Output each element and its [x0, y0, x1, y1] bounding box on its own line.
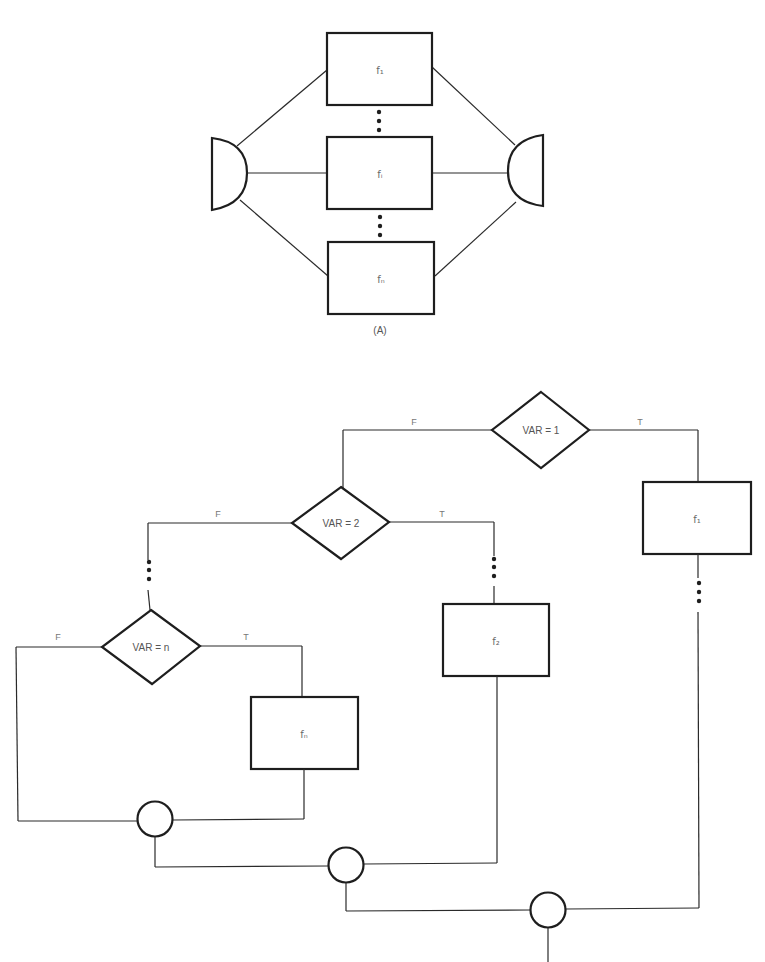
box-label: fₙ — [377, 274, 385, 285]
box-label: fᵢ — [377, 169, 383, 180]
ellipsis-dot — [147, 577, 151, 581]
box-label: fₙ — [300, 729, 308, 740]
connector-line — [237, 70, 327, 146]
junction-circle-3 — [531, 893, 566, 928]
false-label: F — [411, 417, 417, 427]
connector-line — [432, 67, 515, 145]
ellipsis-dot — [492, 565, 496, 569]
false-label: F — [55, 632, 61, 642]
box-label: f₁ — [376, 65, 384, 76]
diagram-canvas: f₁ fᵢ fₙ (A) VAR = 1 F T f₁ — [0, 0, 765, 962]
flow-line — [148, 590, 150, 610]
decision-condition: VAR = n — [133, 642, 170, 653]
ellipsis-dot — [378, 224, 382, 228]
join-shape-icon — [508, 135, 543, 206]
box-label: f₁ — [693, 514, 701, 525]
connector-line — [435, 202, 516, 276]
figure-caption: (A) — [373, 325, 386, 336]
ellipsis-dot — [697, 590, 701, 594]
box-label: f₂ — [492, 636, 500, 647]
ellipsis-dot — [377, 110, 381, 114]
ellipsis-dot — [697, 599, 701, 603]
true-label: T — [637, 417, 643, 427]
fork-shape-icon — [212, 138, 247, 210]
merge-line — [155, 866, 328, 867]
ellipsis-dot — [377, 128, 381, 132]
junction-circle-1 — [138, 802, 173, 837]
connector-line — [240, 200, 328, 276]
false-label: F — [215, 509, 221, 519]
merge-line — [566, 908, 699, 909]
merge-line — [364, 863, 497, 864]
ellipsis-dot — [492, 557, 496, 561]
decision-condition: VAR = 2 — [323, 518, 360, 529]
ellipsis-dot — [697, 581, 701, 585]
figure-b: VAR = 1 F T f₁ VAR = 2 F T f₂ — [16, 392, 751, 962]
true-label: T — [439, 509, 445, 519]
ellipsis-dot — [378, 233, 382, 237]
ellipsis-dot — [378, 215, 382, 219]
ellipsis-dot — [492, 574, 496, 578]
merge-line — [346, 910, 530, 911]
junction-circle-2 — [329, 848, 364, 883]
ellipsis-dot — [147, 560, 151, 564]
ellipsis-dot — [377, 119, 381, 123]
true-label: T — [243, 632, 249, 642]
false-branch-line — [16, 647, 18, 821]
ellipsis-dot — [147, 568, 151, 572]
merge-line — [173, 819, 304, 820]
flow-line — [698, 612, 699, 908]
decision-condition: VAR = 1 — [523, 425, 560, 436]
figure-a: f₁ fᵢ fₙ (A) — [212, 33, 543, 336]
